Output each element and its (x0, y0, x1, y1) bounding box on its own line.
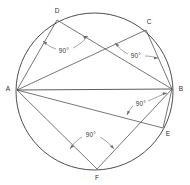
vertex-label-b: B (179, 85, 183, 92)
diameter-AB (17, 89, 172, 90)
vertex-label-e: E (166, 130, 171, 137)
angle-labels-layer: 90° 90° 90° 90° (59, 47, 147, 138)
geometry-diagram: 90° 90° 90° 90° A B C D E F (0, 0, 190, 185)
vertex-label-c: C (147, 18, 152, 25)
vertex-label-d: D (55, 7, 60, 14)
arrowhead-angle-e-down (127, 111, 130, 115)
chord-AD (17, 20, 57, 90)
chord-EB (163, 89, 172, 128)
arrowhead-angle-c-right (154, 57, 158, 60)
angle-label-f: 90° (86, 131, 97, 138)
segments-layer (17, 20, 172, 169)
chord-FB (97, 89, 172, 169)
chord-DB (57, 20, 172, 89)
chord-CB (146, 30, 172, 89)
vertex-label-a: A (6, 85, 11, 92)
chord-AF (17, 90, 97, 169)
angle-label-e: 90° (136, 100, 147, 107)
angle-label-d: 90° (59, 47, 70, 54)
vertex-label-f: F (95, 174, 99, 181)
angle-label-c: 90° (131, 52, 142, 59)
circle-outline (16, 13, 173, 170)
figure-canvas: 90° 90° 90° 90° A B C D E F (0, 0, 190, 185)
